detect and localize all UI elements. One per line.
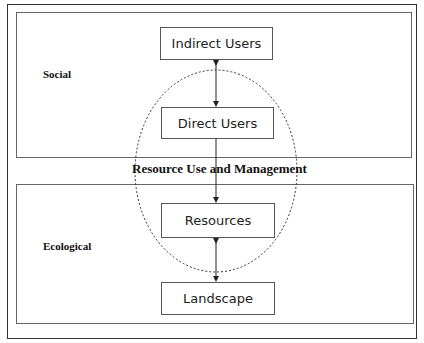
node-landscape: Landscape <box>161 282 275 315</box>
ecological-label: Ecological <box>43 240 91 252</box>
resource-use-management-label: Resource Use and Management <box>132 161 307 177</box>
social-label: Social <box>43 68 71 80</box>
node-direct-users: Direct Users <box>161 107 274 139</box>
node-indirect-users: Indirect Users <box>160 27 273 60</box>
node-resources: Resources <box>161 203 275 238</box>
